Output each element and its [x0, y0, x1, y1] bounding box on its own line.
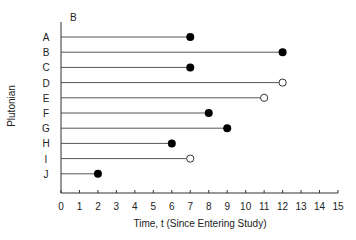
panel-label: B — [70, 12, 77, 23]
x-tick-label: 5 — [151, 201, 157, 212]
y-axis-title: Plutonian — [6, 85, 17, 127]
x-tick-label: 4 — [132, 201, 138, 212]
x-tick-label: 1 — [77, 201, 83, 212]
censored-marker-open — [279, 79, 286, 86]
swimmer-chart: 0123456789101112131415ABCDEFGHIJ B Pluto… — [0, 0, 356, 240]
row-label: C — [42, 62, 49, 73]
row-label: B — [43, 47, 50, 58]
x-tick-label: 8 — [206, 201, 212, 212]
x-tick-label: 0 — [58, 201, 64, 212]
event-marker-filled — [279, 48, 287, 56]
x-tick-label: 13 — [296, 201, 308, 212]
x-tick-label: 3 — [114, 201, 120, 212]
row-label: F — [43, 108, 49, 119]
event-marker-filled — [94, 170, 102, 178]
event-marker-filled — [223, 124, 231, 132]
row-label: I — [45, 154, 48, 165]
x-axis-title: Time, t (Since Entering Study) — [133, 218, 266, 229]
x-tick-label: 2 — [95, 201, 101, 212]
x-tick-label: 9 — [224, 201, 230, 212]
row-label: J — [44, 169, 49, 180]
x-tick-label: 6 — [169, 201, 175, 212]
row-label: D — [42, 78, 49, 89]
x-tick-label: 11 — [259, 201, 270, 212]
event-marker-filled — [205, 109, 213, 117]
censored-marker-open — [261, 94, 268, 101]
row-label: E — [43, 93, 50, 104]
x-tick-label: 12 — [277, 201, 289, 212]
censored-marker-open — [187, 155, 194, 162]
row-label: H — [42, 138, 49, 149]
event-marker-filled — [186, 33, 194, 41]
row-label: G — [42, 123, 50, 134]
event-marker-filled — [168, 139, 176, 147]
x-tick-label: 15 — [332, 201, 344, 212]
x-tick-label: 10 — [240, 201, 252, 212]
plot-area: 0123456789101112131415ABCDEFGHIJ — [42, 22, 344, 212]
event-marker-filled — [186, 63, 194, 71]
x-tick-label: 14 — [314, 201, 326, 212]
row-label: A — [43, 32, 50, 43]
x-tick-label: 7 — [187, 201, 193, 212]
